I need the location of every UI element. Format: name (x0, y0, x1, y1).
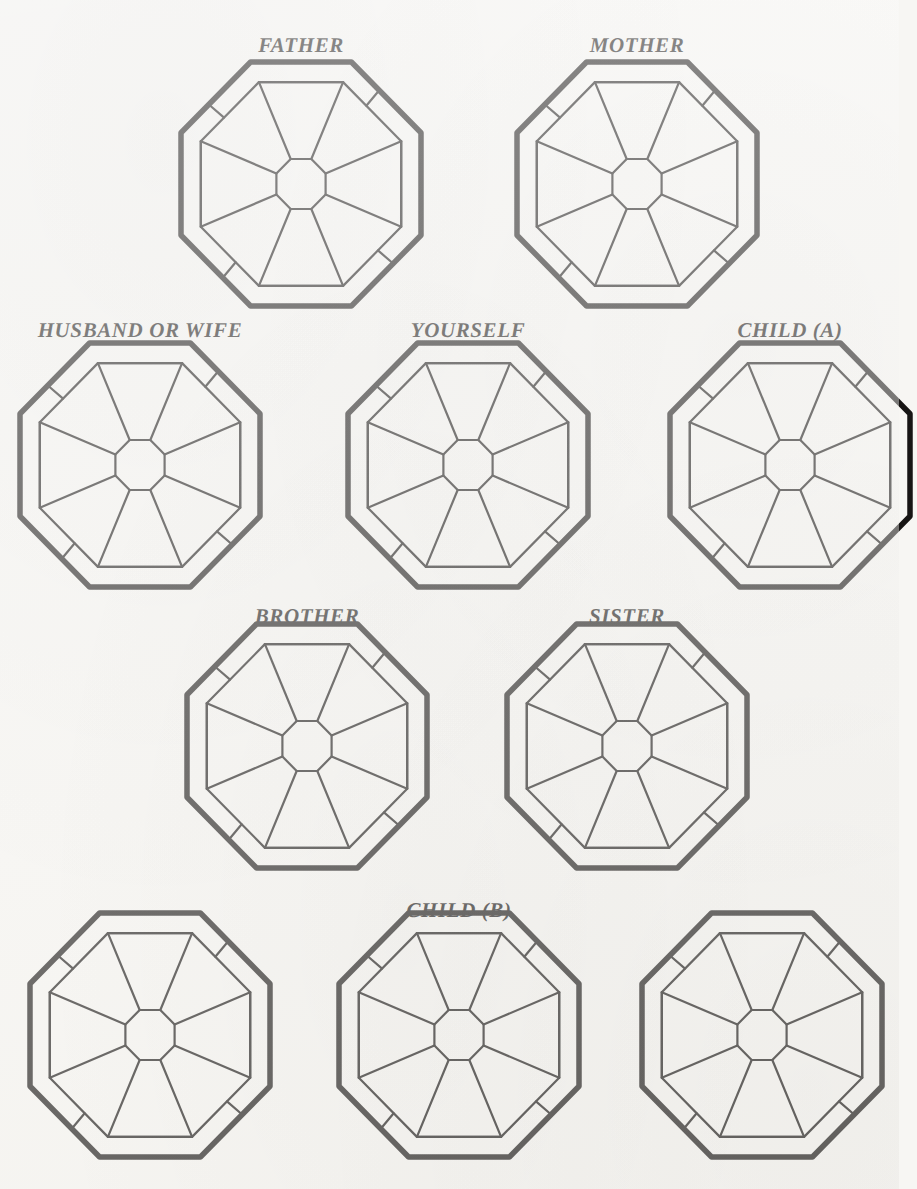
figure-father (171, 52, 431, 316)
octagon-tick-sw (684, 1113, 697, 1128)
figure-label-yourself: YOURSELF (411, 318, 526, 343)
octagon-figure-father (171, 52, 431, 316)
figure-row4-left (20, 903, 280, 1167)
octagon-spoke-5 (800, 490, 832, 567)
figure-yourself (338, 333, 598, 597)
octagon-tick-se (714, 250, 729, 263)
octagon-tick-ne (205, 371, 218, 386)
octagon-spoke-4 (493, 476, 569, 508)
octagon-spoke-1 (748, 363, 780, 440)
octagon-tick-ne (827, 941, 840, 956)
octagon-spoke-8 (207, 703, 283, 735)
octagon-spoke-7 (359, 1046, 435, 1078)
octagon-spoke-4 (332, 757, 408, 789)
octagon-hub (602, 721, 651, 771)
octagon-spoke-6 (720, 1060, 752, 1137)
octagon-spoke-6 (595, 209, 627, 286)
octagon-spoke-6 (748, 490, 780, 567)
octagon-spoke-5 (160, 1060, 192, 1137)
octagon-tick-sw (381, 1113, 394, 1128)
figure-child-a (660, 333, 917, 597)
octagon-spoke-8 (359, 992, 435, 1024)
octagon-spoke-8 (662, 992, 738, 1024)
octagon-spoke-6 (265, 771, 297, 848)
octagon-spoke-2 (772, 933, 804, 1010)
octagon-outer-outline (642, 913, 882, 1157)
octagon-spoke-4 (175, 1046, 251, 1078)
figure-label-mother: MOTHER (590, 33, 685, 58)
octagon-spoke-1 (98, 363, 130, 440)
octagon-spoke-7 (50, 1046, 126, 1078)
octagon-spoke-8 (50, 992, 126, 1024)
octagon-spoke-4 (815, 476, 891, 508)
octagon-tick-se (536, 1101, 551, 1114)
octagon-spoke-4 (484, 1046, 560, 1078)
octagon-spoke-5 (150, 490, 182, 567)
octagon-inner-ring (690, 363, 890, 567)
octagon-spoke-2 (160, 933, 192, 1010)
octagon-figure-row4-right (632, 903, 892, 1167)
octagon-spoke-5 (311, 209, 343, 286)
octagon-spoke-1 (265, 644, 297, 721)
octagon-spoke-8 (537, 141, 613, 173)
octagon-tick-ne (702, 90, 715, 105)
octagon-tick-sw (549, 824, 562, 839)
octagon-tick-sw (72, 1113, 85, 1128)
octagon-spoke-4 (662, 195, 738, 227)
octagon-spoke-2 (478, 363, 510, 440)
octagon-spoke-7 (537, 195, 613, 227)
figure-label-child-a: CHILD (A) (737, 318, 842, 343)
octagon-outer-outline (670, 343, 910, 587)
octagon-spoke-6 (417, 1060, 449, 1137)
octagon-spoke-1 (595, 82, 627, 159)
octagon-inner-ring (662, 933, 862, 1137)
figure-child-b (329, 903, 589, 1167)
octagon-tick-nw (670, 955, 685, 968)
octagon-outer-outline (507, 624, 747, 868)
octagon-spoke-3 (332, 703, 408, 735)
octagon-inner-ring (368, 363, 568, 567)
octagon-outer-outline (348, 343, 588, 587)
octagon-tick-sw (712, 543, 725, 558)
octagon-spoke-3 (175, 992, 251, 1024)
octagon-spoke-3 (326, 141, 402, 173)
octagon-spoke-1 (585, 644, 617, 721)
octagon-figure-husband-or-wife (10, 333, 270, 597)
figure-sister (497, 614, 757, 878)
octagon-spoke-8 (40, 422, 116, 454)
octagon-spoke-7 (368, 476, 444, 508)
octagon-hub (282, 721, 331, 771)
octagon-hub (276, 159, 325, 209)
octagon-spoke-2 (150, 363, 182, 440)
figure-label-husband-or-wife: HUSBAND OR WIFE (38, 318, 243, 343)
octagon-spoke-3 (493, 422, 569, 454)
octagon-inner-ring (201, 82, 401, 286)
octagon-spoke-5 (317, 771, 349, 848)
octagon-tick-se (867, 531, 882, 544)
octagon-tick-nw (209, 104, 224, 117)
octagon-spoke-5 (647, 209, 679, 286)
octagon-tick-se (545, 531, 560, 544)
octagon-spoke-8 (690, 422, 766, 454)
octagon-hub (765, 440, 814, 490)
octagon-tick-ne (372, 652, 385, 667)
octagon-inner-ring (50, 933, 250, 1137)
octagon-spoke-6 (108, 1060, 140, 1137)
octagon-inner-ring (537, 82, 737, 286)
octagon-tick-nw (48, 385, 63, 398)
octagon-outer-outline (181, 62, 421, 306)
octagon-outer-outline (187, 624, 427, 868)
octagon-spoke-6 (259, 209, 291, 286)
octagon-spoke-3 (662, 141, 738, 173)
octagon-hub (612, 159, 661, 209)
octagon-spoke-3 (815, 422, 891, 454)
octagon-tick-se (378, 250, 393, 263)
octagon-tick-ne (366, 90, 379, 105)
octagon-spoke-8 (368, 422, 444, 454)
octagon-spoke-4 (165, 476, 241, 508)
octagon-outer-outline (20, 343, 260, 587)
octagon-spoke-2 (317, 644, 349, 721)
octagon-hub (443, 440, 492, 490)
octagon-tick-nw (367, 955, 382, 968)
